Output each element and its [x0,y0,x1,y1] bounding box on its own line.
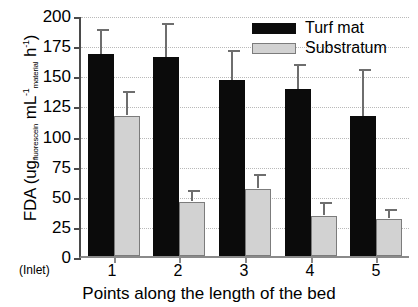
bar-turf-mat[interactable] [219,80,245,256]
y-axis-tick [74,198,81,200]
y-axis-title: FDA (ugfluorescein mL-1material h-1) [21,3,41,253]
y-axis-title-main: FDA (ug [21,160,40,221]
y-axis-tick-label: 100 [43,128,71,148]
y-axis-tick-label: 200 [43,7,71,27]
bar-substratum[interactable] [179,202,205,256]
y-axis-tick [74,138,81,140]
y-axis-tick [74,77,81,79]
error-bar [100,29,102,53]
y-axis-title-sub-fluorescein: fluorescein [31,124,40,161]
y-axis-tick-label: 25 [52,218,71,238]
error-bar [165,23,167,57]
bar-substratum[interactable] [376,219,402,256]
bar-group [81,17,147,256]
y-axis-tick-label: 75 [52,158,71,178]
y-axis-tick [74,168,81,170]
y-axis-tick-label: 50 [52,188,71,208]
x-axis-tick-label: 5(Outlet) [343,262,409,282]
bar-turf-mat[interactable] [285,89,311,256]
y-axis-tick-label: 125 [43,97,71,117]
legend-label: Turf mat [305,19,364,37]
chart-figure: FDA (ugfluorescein mL-1material h-1) 025… [0,0,418,307]
legend: Turf matSubstratum [252,18,402,58]
error-bar [297,64,299,88]
bar-turf-mat[interactable] [350,116,376,256]
legend-item[interactable]: Substratum [252,38,402,58]
y-axis-tick [74,107,81,109]
error-bar [257,174,259,187]
x-axis-tick-labels: 1(Inlet)2345(Outlet) [79,262,409,282]
y-axis-tick [74,258,81,260]
error-bar [323,202,325,215]
y-axis-title-exp2: -1 [21,40,31,48]
bar-substratum[interactable] [245,189,271,256]
y-axis-title-exp1: -1 [21,88,31,96]
y-axis-title-ml: mL [21,96,40,124]
y-axis-title-h: h [21,48,40,62]
legend-swatch-turf-mat [252,23,296,34]
error-bar [191,190,193,201]
x-axis-tick-label: 3 [211,262,277,282]
error-bar [388,209,390,217]
y-axis-tick-label: 175 [43,37,71,57]
y-axis-tick-label: 0 [62,248,71,268]
y-axis-tick-label: 150 [43,67,71,87]
y-axis-tick [74,228,81,230]
x-axis-inlet-label: (Inlet) [19,263,50,277]
x-axis-tick-label: 1(Inlet) [79,262,145,282]
legend-item[interactable]: Turf mat [252,18,402,38]
legend-swatch-substratum [252,43,296,54]
y-axis-tick [74,17,81,19]
x-axis-title: Points along the length of the bed [0,284,418,304]
y-axis-title-close: ) [21,35,40,40]
bar-turf-mat[interactable] [153,57,179,256]
error-bar [231,50,233,80]
y-axis-tick [74,47,81,49]
bar-substratum[interactable] [114,116,140,256]
error-bar [126,91,128,115]
bar-turf-mat[interactable] [88,54,114,256]
x-axis-tick-label: 4 [277,262,343,282]
y-axis-title-sub-material: material [31,62,40,89]
bar-group [147,17,213,256]
x-axis-tick-label: 2 [145,262,211,282]
bar-substratum[interactable] [311,216,337,256]
legend-label: Substratum [305,39,387,57]
error-bar [362,69,364,116]
